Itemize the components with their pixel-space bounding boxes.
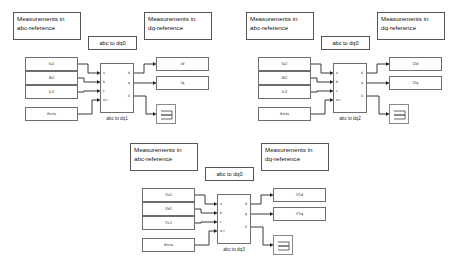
- input-block-theta[interactable]: theta: [258, 107, 311, 121]
- input-block-ic1[interactable]: Ic1: [25, 85, 78, 99]
- scope-icon[interactable]: [273, 235, 293, 255]
- output-arrow-v1q: [270, 212, 273, 216]
- input-arrow-b: [97, 80, 100, 84]
- note-abc-reference: Measurements in abc-reference: [13, 12, 81, 40]
- block-name-label: abc to dq0: [321, 36, 370, 50]
- scope-glyph: [274, 236, 294, 256]
- output-arrow-i2q: [386, 81, 389, 85]
- port-label-d: d: [128, 71, 130, 75]
- port-label-d: d: [245, 202, 247, 206]
- input-arrow-wt: [330, 98, 333, 102]
- port-label-zero: 0: [361, 94, 363, 98]
- block-caption: abc to dq3: [217, 247, 251, 252]
- input-arrow-wt: [97, 98, 100, 102]
- scope-icon[interactable]: [389, 104, 409, 124]
- note-dq-reference: Measurements in dq-reference: [261, 143, 329, 171]
- input-block-ia1[interactable]: Ia1: [25, 57, 78, 71]
- output-block-iq[interactable]: Iq: [156, 76, 209, 90]
- input-block-ib2[interactable]: Ib2: [258, 71, 311, 85]
- port-label-a: a: [336, 71, 338, 75]
- input-block-ia2[interactable]: Ia2: [258, 57, 311, 71]
- port-label-c: c: [103, 89, 105, 93]
- input-arrow-c: [214, 220, 217, 224]
- note-dq-reference: Measurements in dq-reference: [377, 12, 445, 40]
- input-arrow-c: [97, 89, 100, 93]
- block-caption: abc to dq2: [333, 116, 367, 121]
- port-label-q: q: [361, 81, 363, 85]
- diagram-abc-to-dq3: Measurements in abc-reference Measuremen…: [117, 140, 350, 273]
- port-label-q: q: [245, 212, 247, 216]
- scope-glyph: [157, 105, 177, 125]
- diagram-canvas: Measurements in abc-reference Measuremen…: [0, 0, 466, 273]
- port-label-a: a: [220, 202, 222, 206]
- port-label-wt: w t: [336, 98, 340, 102]
- scope-glyph: [390, 105, 410, 125]
- input-block-ib1[interactable]: Ib1: [25, 71, 78, 85]
- port-label-a: a: [103, 71, 105, 75]
- block-caption: abc to dq1: [100, 116, 134, 121]
- block-name-label: abc to dq0: [88, 36, 137, 50]
- port-label-b: b: [220, 211, 222, 215]
- input-arrow-a: [97, 71, 100, 75]
- port-label-d: d: [361, 71, 363, 75]
- output-block-v1q[interactable]: V1q: [273, 207, 326, 221]
- port-label-wt: w t: [103, 98, 107, 102]
- input-arrow-a: [330, 71, 333, 75]
- output-block-i2d[interactable]: I2d: [389, 57, 442, 71]
- input-block-va1[interactable]: Va1: [142, 188, 195, 202]
- output-arrow-iq: [153, 81, 156, 85]
- diagram-abc-to-dq1: Measurements in abc-reference Measuremen…: [0, 0, 233, 140]
- input-block-vc1[interactable]: Vc1: [142, 216, 195, 230]
- port-label-zero: 0: [128, 94, 130, 98]
- input-block-theta[interactable]: theta: [142, 238, 195, 252]
- output-arrow-id: [153, 62, 156, 66]
- input-arrow-b: [330, 80, 333, 84]
- port-label-zero: 0: [245, 225, 247, 229]
- note-abc-reference: Measurements in abc-reference: [130, 143, 198, 171]
- input-arrow-wt: [214, 229, 217, 233]
- port-label-c: c: [220, 220, 222, 224]
- block-name-label: abc to dq0: [205, 167, 254, 181]
- port-label-b: b: [336, 80, 338, 84]
- output-arrow-v1d: [270, 193, 273, 197]
- output-block-i2q[interactable]: I2q: [389, 76, 442, 90]
- input-arrow-a: [214, 202, 217, 206]
- port-label-c: c: [336, 89, 338, 93]
- port-label-q: q: [128, 81, 130, 85]
- output-block-id[interactable]: Id: [156, 57, 209, 71]
- note-abc-reference: Measurements in abc-reference: [246, 12, 314, 40]
- input-arrow-b: [214, 211, 217, 215]
- note-dq-reference: Measurements in dq-reference: [144, 12, 212, 40]
- input-block-theta[interactable]: theta: [25, 107, 78, 121]
- port-label-wt: w t: [220, 229, 224, 233]
- output-block-v1d[interactable]: V1d: [273, 188, 326, 202]
- diagram-abc-to-dq2: Measurements in abc-reference Measuremen…: [233, 0, 466, 140]
- input-block-ic2[interactable]: Ic2: [258, 85, 311, 99]
- input-block-vb1[interactable]: Vb1: [142, 202, 195, 216]
- input-arrow-c: [330, 89, 333, 93]
- port-label-b: b: [103, 80, 105, 84]
- output-arrow-i2d: [386, 62, 389, 66]
- scope-icon[interactable]: [156, 104, 176, 124]
